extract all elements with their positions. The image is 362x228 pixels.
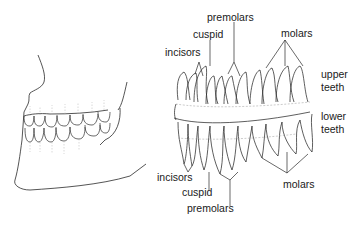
label-incisors-upper: incisors bbox=[165, 46, 201, 58]
label-premolars-upper: premolars bbox=[207, 11, 254, 23]
label-cuspid-lower: cuspid bbox=[182, 186, 212, 198]
label-premolars-lower: premolars bbox=[187, 202, 234, 214]
dentition-diagram: premolars cuspid incisors molars upper t… bbox=[0, 0, 362, 228]
label-upper-line1: upper bbox=[321, 68, 348, 80]
label-upper-line2: teeth bbox=[321, 81, 344, 93]
label-molars-lower: molars bbox=[283, 178, 315, 190]
label-cuspid-upper: cuspid bbox=[193, 28, 223, 40]
label-incisors-lower: incisors bbox=[157, 171, 193, 183]
label-lower-line2: teeth bbox=[321, 123, 344, 135]
label-lower-line1: lower bbox=[321, 110, 346, 122]
lower-teeth bbox=[178, 114, 313, 174]
label-molars-upper: molars bbox=[281, 27, 313, 39]
upper-teeth bbox=[176, 66, 310, 107]
